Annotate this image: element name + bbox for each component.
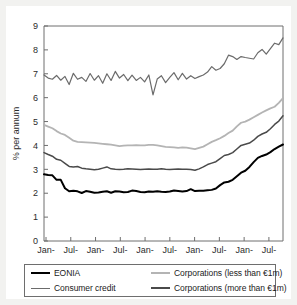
x-tick-label-month: Jul- bbox=[163, 245, 178, 255]
y-tick-label: 8 bbox=[33, 45, 38, 55]
x-tick-label-month: Jul- bbox=[113, 245, 128, 255]
y-tick-label: 2 bbox=[33, 188, 38, 198]
legend-label-corporations-less-than-1m: Corporations (less than €1m) bbox=[174, 268, 282, 278]
y-tick-label: 1 bbox=[33, 212, 38, 222]
y-tick-label: 5 bbox=[33, 117, 38, 127]
legend-label-corporations-more-than-1m: Corporations (more than €1m) bbox=[174, 283, 286, 293]
x-tick-label-month: Jan- bbox=[87, 245, 105, 255]
x-tick-label-month: Jul- bbox=[212, 245, 227, 255]
x-tick-label-month: Jul- bbox=[64, 245, 79, 255]
legend-item-consumer-credit: Consumer credit bbox=[25, 283, 145, 293]
chart-legend: EONIA Corporations (less than €1m) Consu… bbox=[24, 264, 276, 297]
legend-label-consumer-credit: Consumer credit bbox=[54, 283, 116, 293]
y-tick-label: 6 bbox=[33, 93, 38, 103]
series-line bbox=[44, 98, 283, 149]
y-tick-label: 4 bbox=[33, 141, 38, 151]
legend-item-corporations-more-than-1m: Corporations (more than €1m) bbox=[145, 283, 286, 293]
series-line bbox=[44, 38, 283, 95]
x-tick-label-month: Jan- bbox=[186, 245, 204, 255]
x-tick-label-month: Jan- bbox=[136, 245, 154, 255]
y-axis-title: % per annum bbox=[11, 107, 21, 161]
y-tick-label: 7 bbox=[33, 69, 38, 79]
chart-card: 0123456789% per annumJan-03Jul-03Jan-04J… bbox=[6, 6, 291, 299]
line-chart: 0123456789% per annumJan-03Jul-03Jan-04J… bbox=[6, 10, 291, 255]
x-tick-label-month: Jan- bbox=[37, 245, 55, 255]
legend-swatch-corporations-less-than-1m bbox=[151, 272, 170, 274]
x-tick-label-month: Jan- bbox=[235, 245, 253, 255]
y-tick-label: 9 bbox=[33, 21, 38, 31]
legend-item-corporations-less-than-1m: Corporations (less than €1m) bbox=[145, 268, 286, 278]
x-tick-label-month: Jul- bbox=[262, 245, 277, 255]
legend-swatch-eonia bbox=[31, 272, 50, 274]
chart-figure: 0123456789% per annumJan-03Jul-03Jan-04J… bbox=[0, 0, 297, 305]
legend-label-eonia: EONIA bbox=[54, 268, 80, 278]
legend-swatch-corporations-more-than-1m bbox=[151, 287, 170, 289]
legend-item-eonia: EONIA bbox=[25, 268, 145, 278]
series-line bbox=[44, 116, 283, 170]
plot-area: 0123456789% per annumJan-03Jul-03Jan-04J… bbox=[6, 10, 291, 255]
legend-swatch-consumer-credit bbox=[31, 288, 50, 289]
y-tick-label: 3 bbox=[33, 165, 38, 175]
